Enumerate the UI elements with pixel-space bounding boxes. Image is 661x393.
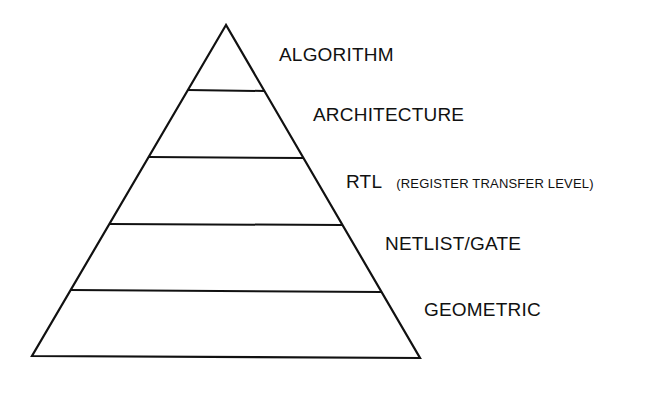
level-label-rtl: RTL(REGISTER TRANSFER LEVEL): [346, 171, 594, 193]
abstraction-pyramid-diagram: ALGORITHM ARCHITECTURE RTL(REGISTER TRAN…: [0, 0, 661, 393]
level-label-geometric: GEOMETRIC: [424, 299, 541, 321]
level-label-architecture: ARCHITECTURE: [313, 104, 464, 126]
rtl-note: (REGISTER TRANSFER LEVEL): [396, 176, 594, 191]
divider-2: [149, 157, 303, 158]
divider-3: [110, 224, 342, 225]
divider-1: [188, 90, 264, 91]
rtl-label: RTL: [346, 171, 382, 192]
level-label-algorithm: ALGORITHM: [279, 44, 394, 66]
divider-4: [71, 290, 381, 292]
level-label-netlist-gate: NETLIST/GATE: [385, 233, 521, 255]
